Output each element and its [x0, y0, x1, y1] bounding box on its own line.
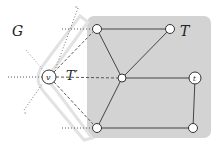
- node-e: [189, 124, 198, 133]
- node-b: [166, 25, 175, 34]
- node-a: [93, 25, 102, 34]
- node-d: [93, 124, 102, 133]
- label-T-prime: T′: [66, 68, 78, 83]
- label-t: t: [193, 75, 196, 83]
- node-c: [118, 74, 126, 82]
- graph-diagram: G T T′ v t v x: [0, 0, 217, 148]
- label-G: G: [12, 23, 23, 39]
- label-v: v: [46, 73, 51, 82]
- label-bottom-tick: x: [24, 110, 27, 115]
- dotted-diagonal-upper-left: [26, 50, 44, 71]
